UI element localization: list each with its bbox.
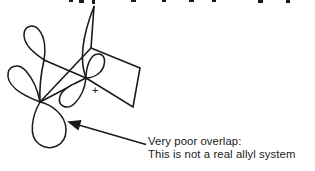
positive-charge-symbol: + bbox=[92, 84, 98, 96]
figure-canvas: + Very poor overlap: This is not a real … bbox=[0, 0, 315, 171]
carbon-skeleton bbox=[40, 7, 140, 108]
alkene-bond bbox=[40, 60, 44, 102]
annotation-arrow-icon bbox=[67, 120, 146, 145]
annotation-line-2: This is not a real allyl system bbox=[148, 148, 296, 161]
annotation-caption: Very poor overlap: This is not a real al… bbox=[148, 135, 296, 162]
cation-lower-p-lobe bbox=[59, 78, 86, 107]
cropped-text-remnants bbox=[69, 0, 290, 4]
p-orbital-lobes bbox=[8, 26, 105, 147]
left-carbon-upper-p-lobe bbox=[8, 66, 40, 102]
annotation-line-1: Very poor overlap: bbox=[148, 135, 296, 148]
cation-upper-p-lobe bbox=[86, 54, 105, 78]
left-carbon-lower-p-lobe bbox=[32, 102, 66, 148]
alkene-upper-p-lobe bbox=[24, 26, 45, 60]
